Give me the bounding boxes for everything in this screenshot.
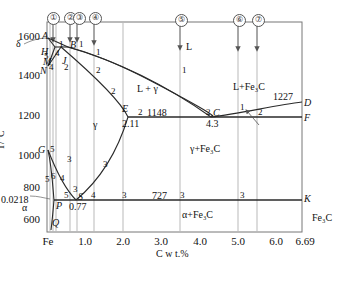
value-eutectoid-comp: 0.77: [69, 202, 87, 212]
curve-number-2b: 2: [96, 66, 101, 75]
point-label-K: K: [304, 194, 311, 204]
x-tick-3p0: 3.0: [150, 236, 172, 247]
alloy-marker-5[interactable]: ⑤: [175, 14, 188, 27]
curve-number-3b: 3: [103, 160, 108, 169]
y-axis-title: T/°C: [0, 130, 6, 150]
phase-label-gamma-fe3c: γ+Fe₃C: [190, 144, 220, 154]
phase-label-liquid: L: [186, 42, 192, 52]
x-tick-4p0: 4.0: [189, 236, 211, 247]
phase-label-liquid-fe3c: L+Fe₃C: [233, 82, 265, 92]
value-eutectic-temp: 1148: [147, 108, 167, 118]
curve-number-2f: 2: [258, 108, 263, 117]
point-label-P: P: [56, 201, 62, 211]
x-tick-6p0: 6.0: [265, 236, 287, 247]
curve-number-5d: 5: [45, 175, 50, 184]
phase-label-gamma: γ: [93, 120, 97, 130]
curve-number-2a: 2: [64, 63, 69, 72]
x-tick-6p69: 6.69: [291, 236, 319, 247]
phase-label-alpha: α: [22, 203, 27, 213]
y-tick-1400: 1400: [8, 70, 40, 81]
alloy-marker-arrows: [53, 24, 257, 49]
point-label-D: D: [304, 98, 311, 108]
y-tick-1200: 1200: [8, 110, 40, 121]
curve-number-1d: 1: [182, 66, 187, 75]
point-label-Q: Q: [52, 218, 59, 228]
curve-number-4c: 4: [91, 191, 96, 200]
y-tick-1600: 1600: [8, 31, 40, 42]
curve-number-3a: 3: [67, 155, 72, 164]
point-label-E: E: [122, 104, 128, 114]
curve-number-3e: 3: [180, 191, 185, 200]
alloy-marker-3[interactable]: ③: [73, 12, 86, 25]
point-label-A: A: [42, 31, 48, 41]
phase-diagram-figure: ① ② ③ ④ ⑤ ⑥ ⑦ 1600 1400 1200 1000 800 60…: [0, 0, 344, 282]
curve-number-5b: 5: [64, 191, 69, 200]
curve-number-2d: 2: [138, 108, 143, 117]
curve-number-3c: 3: [73, 185, 78, 194]
phase-label-delta: δ: [16, 39, 21, 49]
alloy-marker-7[interactable]: ⑦: [252, 14, 265, 27]
y-tick-600: 600: [8, 214, 40, 225]
curve-number-4a: 4: [49, 63, 54, 72]
curve-number-6a: 6: [51, 172, 56, 181]
curve-number-5c: 5: [44, 52, 49, 61]
curve-number-3d: 3: [122, 191, 127, 200]
x-tick-2p0: 2.0: [112, 236, 134, 247]
curve-number-2c: 2: [111, 87, 116, 96]
phase-label-cementite: Fe₃C: [312, 213, 332, 223]
point-label-B: B: [70, 40, 76, 50]
x-axis-title: C w t.%: [156, 249, 189, 259]
phase-label-liquid-gamma: L + γ: [137, 84, 158, 94]
point-label-C: C: [213, 108, 220, 118]
value-peritectic-right: 1227: [273, 92, 293, 102]
phase-label-alpha-fe3c: α+Fe₃C: [182, 210, 213, 220]
point-label-F: F: [304, 113, 310, 123]
alloy-marker-6[interactable]: ⑥: [233, 14, 246, 27]
value-gamma-max-comp: 2.11: [122, 119, 139, 129]
curve-number-4d: 4: [55, 49, 60, 58]
point-label-G: G: [38, 145, 45, 155]
x-tick-1p0: 1.0: [74, 236, 96, 247]
alloy-marker-4[interactable]: ④: [89, 12, 102, 25]
y-tick-1000: 1000: [8, 150, 40, 161]
curve-number-1b: 1: [79, 40, 84, 49]
curve-number-2e: 2: [206, 108, 211, 117]
value-eutectoid-temp: 727: [152, 191, 167, 201]
point-label-N: N: [40, 66, 47, 76]
x-tick-fe: Fe: [37, 236, 59, 247]
alloy-marker-1[interactable]: ①: [47, 12, 60, 25]
curve-number-1c: 1: [96, 48, 101, 57]
curve-number-5a: 5: [50, 145, 55, 154]
curve-number-4b: 4: [60, 174, 65, 183]
value-eutectic-comp: 4.3: [206, 119, 219, 129]
y-tick-800: 800: [8, 182, 40, 193]
x-tick-5p0: 5.0: [227, 236, 249, 247]
curve-number-1e: 1: [240, 103, 245, 112]
curve-number-3f: 3: [240, 191, 245, 200]
